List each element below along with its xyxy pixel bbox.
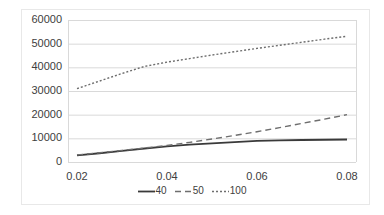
series-line-40 — [77, 140, 347, 156]
y-tick-label-0: 0 — [16, 156, 62, 167]
legend-item-40[interactable]: 40 — [138, 186, 167, 196]
series-line-50 — [77, 115, 347, 155]
legend-label-50: 50 — [193, 186, 204, 196]
y-tick-label-30000: 30000 — [16, 85, 62, 96]
y-tick-label-60000: 60000 — [16, 14, 62, 25]
legend-label-40: 40 — [156, 186, 167, 196]
legend-swatch-100-icon — [212, 187, 229, 196]
y-tick-label-10000: 10000 — [16, 132, 62, 143]
x-tick-label-0.06: 0.06 — [234, 171, 280, 182]
x-tick-label-0.08: 0.08 — [324, 171, 370, 182]
chart-legend: 4050100 — [0, 186, 384, 196]
x-tick-label-0.02: 0.02 — [54, 171, 100, 182]
legend-item-50[interactable]: 50 — [175, 186, 204, 196]
legend-swatch-50-icon — [175, 187, 192, 196]
y-tick-label-40000: 40000 — [16, 61, 62, 72]
y-tick-label-20000: 20000 — [16, 109, 62, 120]
series-lines — [77, 36, 347, 155]
legend-label-100: 100 — [230, 186, 247, 196]
legend-swatch-40-icon — [138, 187, 155, 196]
legend-item-100[interactable]: 100 — [212, 186, 247, 196]
x-tick-label-0.04: 0.04 — [144, 171, 190, 182]
y-tick-label-50000: 50000 — [16, 38, 62, 49]
